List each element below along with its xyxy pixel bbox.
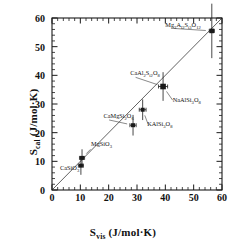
x-axis-title: Svis (J/mol·K) bbox=[0, 226, 246, 241]
data-point-label: CaMgSi2O6 bbox=[104, 113, 134, 122]
data-point-label: CaAl2Si2O8 bbox=[130, 70, 160, 79]
y-axis-tick-label: 20 bbox=[25, 127, 45, 138]
data-point-marker[interactable] bbox=[210, 29, 215, 34]
data-point-label: KAlSi3O8 bbox=[147, 121, 172, 130]
data-point-label: NaAlSi3O8 bbox=[173, 97, 201, 106]
x-axis-title-subscript: vis bbox=[96, 232, 105, 241]
formula-subscript: 3 bbox=[192, 100, 194, 105]
y-axis-tick-label: 40 bbox=[25, 70, 45, 81]
y-axis-tick-label: 60 bbox=[25, 13, 45, 24]
data-point-label: Mg3Al2Si3O12 bbox=[165, 22, 200, 31]
y-axis-title: Scal (J/mol·K) bbox=[27, 42, 39, 202]
x-axis-tick-label: 10 bbox=[75, 192, 85, 203]
data-point-label: CaSiO3 bbox=[0, 165, 79, 174]
formula-subscript: 3 bbox=[163, 124, 165, 129]
y-axis-tick-label: 30 bbox=[25, 99, 45, 110]
formula-subscript: 2 bbox=[125, 116, 127, 121]
data-point-marker[interactable] bbox=[131, 123, 135, 127]
x-axis-tick-label: 60 bbox=[217, 192, 227, 203]
formula-subscript: 3 bbox=[174, 25, 176, 30]
data-point-marker[interactable] bbox=[80, 156, 84, 160]
x-axis-tick-label: 40 bbox=[160, 192, 170, 203]
y-axis-tick-label: 50 bbox=[25, 41, 45, 52]
y-axis-tick-label: 0 bbox=[25, 185, 45, 196]
x-axis-tick-label: 50 bbox=[189, 192, 199, 203]
y-axis-title-subscript: cal bbox=[33, 139, 42, 149]
formula-subscript: 2 bbox=[143, 73, 145, 78]
scatter-chart-figure: Svis (J/mol·K) Scal (J/mol·K) 0102030405… bbox=[0, 0, 246, 243]
formula-subscript: 3 bbox=[77, 168, 79, 173]
formula-subscript: 3 bbox=[110, 144, 112, 149]
x-axis-tick-label: 0 bbox=[50, 192, 55, 203]
x-axis-tick-label: 20 bbox=[104, 192, 114, 203]
x-axis-tick-label: 30 bbox=[132, 192, 142, 203]
data-point-marker[interactable] bbox=[141, 108, 145, 112]
data-point-label: MgSiO3 bbox=[91, 141, 112, 150]
data-point-marker[interactable] bbox=[160, 84, 166, 90]
